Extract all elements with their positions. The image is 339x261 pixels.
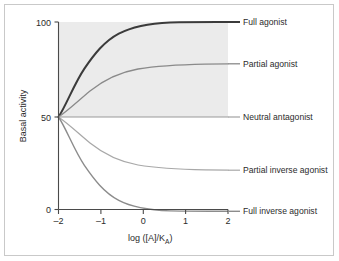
ytick-label-50: 50 xyxy=(41,113,51,123)
legend-item-neutral-antagonist: Neutral antagonist xyxy=(228,112,313,122)
xtick-label-1: 1 xyxy=(183,216,188,226)
xtick-label-2: 2 xyxy=(225,216,230,226)
curve-full-inverse-agonist xyxy=(59,117,229,211)
x-axis-title-main: log ([A]/K xyxy=(128,233,165,243)
x-axis-title: log ([A]/KA) xyxy=(128,233,172,245)
legend-label-neutral-antagonist: Neutral antagonist xyxy=(243,112,313,122)
legend-label-full-inverse-agonist: Full inverse agonist xyxy=(243,206,318,216)
xtick-label-neg1: –1 xyxy=(96,216,106,226)
xtick-label-neg2: –2 xyxy=(53,216,63,226)
dose-response-chart: 100 50 0 –2 –1 0 1 2 Basal activity log … xyxy=(0,0,339,261)
legend-label-full-agonist: Full agonist xyxy=(243,17,288,27)
legend-item-partial-agonist: Partial agonist xyxy=(228,59,298,69)
x-axis-title-tail: ) xyxy=(169,233,172,243)
figure-container: 100 50 0 –2 –1 0 1 2 Basal activity log … xyxy=(0,0,339,261)
y-axis-title: Basal activity xyxy=(18,89,28,142)
legend-item-full-inverse-agonist: Full inverse agonist xyxy=(228,206,318,216)
ytick-label-100: 100 xyxy=(36,18,51,28)
legend-label-partial-agonist: Partial agonist xyxy=(243,59,298,69)
svg-text:log ([A]/KA): log ([A]/KA) xyxy=(128,233,172,245)
ytick-label-0: 0 xyxy=(46,205,51,215)
legend-item-full-agonist: Full agonist xyxy=(228,17,288,27)
legend-item-partial-inverse-agonist: Partial inverse agonist xyxy=(228,165,328,175)
curve-partial-inverse-agonist xyxy=(59,117,229,170)
xtick-label-0: 0 xyxy=(141,216,146,226)
legend-label-partial-inverse-agonist: Partial inverse agonist xyxy=(243,165,328,175)
